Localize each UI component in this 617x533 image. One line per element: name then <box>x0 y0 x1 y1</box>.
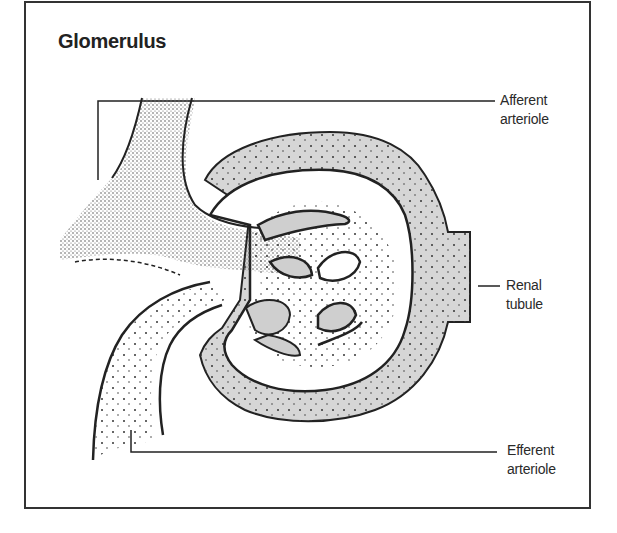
label-efferent-arteriole: Efferent arteriole <box>507 441 556 479</box>
label-renal-line1: Renal <box>506 276 543 295</box>
label-efferent-line1: Efferent <box>507 441 556 460</box>
label-afferent-arteriole: Afferent arteriole <box>500 91 549 129</box>
label-renal-line2: tubule <box>506 295 543 314</box>
label-afferent-line2: arteriole <box>500 110 549 129</box>
label-efferent-line2: arteriole <box>507 460 556 479</box>
efferent-leader-line <box>131 430 497 452</box>
label-afferent-line1: Afferent <box>500 91 549 110</box>
label-renal-tubule: Renal tubule <box>506 276 543 314</box>
